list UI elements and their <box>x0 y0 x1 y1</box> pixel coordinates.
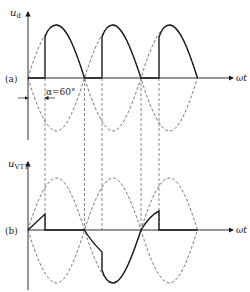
x-label-b: ωt <box>236 225 247 235</box>
x-label-a: ωt <box>236 73 247 83</box>
panel-b: uVT1 (b) ωt <box>5 158 247 290</box>
y-label-a: ud <box>10 7 21 20</box>
panel-a: ud (a) ωt α=60° <box>5 7 247 140</box>
ud-waveform <box>28 25 198 78</box>
dashed-sine-a-neg <box>28 78 198 131</box>
y-label-b: uVT1 <box>8 158 29 171</box>
guide-lines <box>45 78 159 230</box>
uvt1-waveform <box>28 211 198 283</box>
panel-tag-b: (b) <box>5 226 18 236</box>
alpha-annotation: α=60° <box>46 87 76 97</box>
dashed-sine-a-pos <box>28 25 198 78</box>
panel-tag-a: (a) <box>5 74 17 84</box>
waveform-figure: ud (a) ωt α=60° uVT1 (b) ωt <box>0 0 250 292</box>
